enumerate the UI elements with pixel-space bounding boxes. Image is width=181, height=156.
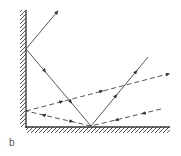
horizontal-mirror — [25, 127, 170, 133]
panel-label: b — [9, 137, 15, 148]
vertical-mirror — [20, 10, 26, 128]
solid-ray — [26, 12, 148, 126]
dashed-ray-upper — [26, 74, 168, 111]
corner-reflector-diagram — [0, 0, 181, 156]
